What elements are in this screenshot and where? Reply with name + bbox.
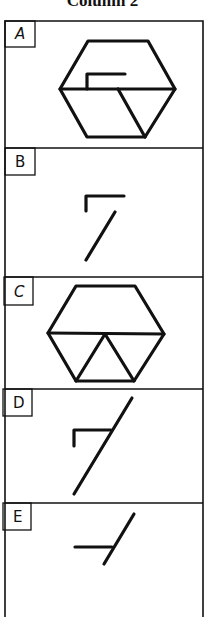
frame-border [5, 21, 203, 617]
shape-stroke [118, 89, 145, 137]
option-panel-d[interactable]: D [3, 389, 203, 494]
option-panel-c[interactable]: C [4, 277, 203, 381]
shape-stroke [104, 514, 134, 564]
option-panel-a[interactable]: A [5, 21, 175, 137]
panel-shape [75, 514, 134, 564]
answer-options-figure: ABCDE [0, 0, 205, 617]
panel-label: D [13, 394, 25, 412]
panel-shape [60, 41, 175, 137]
shape-stroke [74, 398, 132, 494]
panel-shape [74, 398, 132, 494]
option-panel-b[interactable]: B [5, 148, 203, 260]
shape-stroke [86, 212, 115, 260]
panel-label: A [14, 25, 25, 43]
panel-label: B [15, 153, 25, 171]
option-panels: ABCDE [3, 21, 203, 564]
shape-stroke [87, 74, 125, 89]
panel-label: E [13, 508, 22, 526]
panel-shape [48, 286, 164, 381]
shape-stroke [76, 334, 134, 381]
panel-label: C [14, 283, 25, 301]
panel-shape [86, 196, 124, 260]
option-panel-e[interactable]: E [3, 503, 203, 564]
outer-frame [5, 21, 203, 617]
shape-stroke [86, 196, 124, 211]
